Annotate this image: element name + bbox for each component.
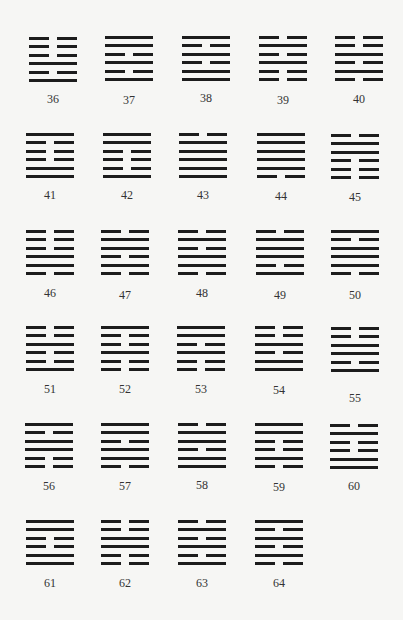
solid-line bbox=[101, 264, 149, 267]
line-segment bbox=[26, 343, 74, 346]
line-segment bbox=[331, 238, 351, 241]
line-segment bbox=[26, 175, 74, 178]
line-segment bbox=[257, 175, 277, 178]
line-segment bbox=[178, 440, 226, 443]
hexagram-lines bbox=[255, 326, 303, 371]
line-segment bbox=[103, 150, 123, 153]
hexagram-41: 41 bbox=[26, 133, 74, 178]
broken-line bbox=[29, 45, 77, 48]
broken-line bbox=[178, 448, 226, 451]
broken-line bbox=[26, 141, 74, 144]
line-segment bbox=[103, 141, 151, 144]
broken-line bbox=[29, 71, 77, 74]
line-segment bbox=[57, 37, 77, 40]
solid-line bbox=[29, 79, 77, 82]
line-segment bbox=[101, 457, 149, 460]
solid-line bbox=[182, 53, 230, 56]
broken-line bbox=[26, 351, 74, 354]
line-segment bbox=[331, 344, 379, 347]
line-segment bbox=[25, 440, 73, 443]
line-segment bbox=[259, 78, 279, 81]
solid-line bbox=[179, 141, 227, 144]
line-segment bbox=[29, 45, 49, 48]
hexagram-lines bbox=[255, 520, 303, 565]
line-segment bbox=[129, 272, 149, 275]
line-segment bbox=[257, 167, 305, 170]
line-segment bbox=[331, 272, 351, 275]
line-segment bbox=[26, 230, 46, 233]
solid-line bbox=[178, 562, 226, 565]
line-segment bbox=[101, 343, 121, 346]
hexagram-37: 37 bbox=[105, 36, 153, 81]
line-segment bbox=[331, 327, 351, 330]
broken-line bbox=[335, 78, 383, 81]
line-segment bbox=[26, 528, 74, 531]
broken-line bbox=[335, 44, 383, 47]
line-segment bbox=[335, 53, 383, 56]
line-segment bbox=[101, 465, 121, 468]
solid-line bbox=[178, 264, 226, 267]
solid-line bbox=[26, 255, 74, 258]
solid-line bbox=[331, 344, 379, 347]
broken-line bbox=[255, 334, 303, 337]
line-segment bbox=[54, 150, 74, 153]
hexagram-59: 59 bbox=[255, 423, 303, 468]
hexagram-lines bbox=[103, 133, 151, 178]
broken-line bbox=[26, 272, 74, 275]
line-segment bbox=[178, 528, 226, 531]
line-segment bbox=[101, 238, 149, 241]
line-segment bbox=[178, 264, 226, 267]
line-segment bbox=[255, 360, 303, 363]
solid-line bbox=[26, 520, 74, 523]
line-segment bbox=[330, 441, 350, 444]
line-segment bbox=[283, 334, 303, 337]
broken-line bbox=[105, 53, 153, 56]
line-segment bbox=[256, 264, 276, 267]
solid-line bbox=[103, 133, 151, 136]
line-segment bbox=[287, 36, 307, 39]
hexagram-52: 52 bbox=[101, 326, 149, 371]
line-segment bbox=[359, 168, 379, 171]
hexagram-lines bbox=[256, 230, 304, 275]
line-segment bbox=[105, 61, 153, 64]
solid-line bbox=[105, 78, 153, 81]
hexagram-44: 44 bbox=[257, 133, 305, 178]
solid-line bbox=[105, 61, 153, 64]
broken-line bbox=[182, 61, 230, 64]
line-segment bbox=[29, 79, 77, 82]
broken-line bbox=[255, 545, 303, 548]
line-segment bbox=[179, 133, 199, 136]
broken-line bbox=[331, 272, 379, 275]
hexagram-number: 44 bbox=[257, 189, 305, 204]
line-segment bbox=[182, 70, 230, 73]
line-segment bbox=[26, 255, 74, 258]
line-segment bbox=[54, 272, 74, 275]
broken-line bbox=[178, 554, 226, 557]
line-segment bbox=[255, 520, 303, 523]
hexagram-lines bbox=[178, 230, 226, 275]
line-segment bbox=[54, 141, 74, 144]
hexagram-lines bbox=[101, 230, 149, 275]
line-segment bbox=[283, 465, 303, 468]
line-segment bbox=[101, 351, 149, 354]
line-segment bbox=[206, 520, 226, 523]
line-segment bbox=[26, 351, 46, 354]
solid-line bbox=[330, 466, 378, 469]
line-segment bbox=[359, 335, 379, 338]
line-segment bbox=[105, 36, 153, 39]
solid-line bbox=[103, 141, 151, 144]
solid-line bbox=[177, 326, 225, 329]
solid-line bbox=[26, 175, 74, 178]
hexagram-64: 64 bbox=[255, 520, 303, 565]
line-segment bbox=[26, 334, 46, 337]
solid-line bbox=[330, 432, 378, 435]
solid-line bbox=[182, 70, 230, 73]
hexagram-number: 62 bbox=[101, 576, 149, 591]
line-segment bbox=[54, 334, 74, 337]
solid-line bbox=[182, 36, 230, 39]
line-segment bbox=[284, 230, 304, 233]
line-segment bbox=[101, 562, 121, 565]
broken-line bbox=[29, 54, 77, 57]
solid-line bbox=[331, 142, 379, 145]
solid-line bbox=[182, 78, 230, 81]
